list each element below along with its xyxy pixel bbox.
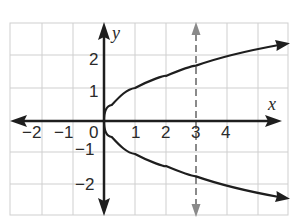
x-tick-label: −2 xyxy=(22,123,41,142)
dashed-arrow-up-icon xyxy=(192,22,201,35)
y-tick-label: −1 xyxy=(75,140,94,159)
coordinate-plane: y x −2 −1 0 1 2 3 4 2 1 −1 −2 xyxy=(0,0,292,222)
x-axis-label: x xyxy=(267,94,276,114)
x-tick-label: 4 xyxy=(221,123,230,142)
axes xyxy=(10,22,282,216)
y-axis-label: y xyxy=(110,23,120,43)
x-tick-label: 1 xyxy=(131,123,140,142)
upper-branch xyxy=(104,45,279,121)
x-tick-label: 2 xyxy=(161,123,170,142)
y-tick-label: 1 xyxy=(89,82,98,101)
x-tick-label: −1 xyxy=(54,123,73,142)
y-tick-label: −2 xyxy=(75,175,94,194)
vertical-line-test xyxy=(192,22,201,217)
y-tick-label: 2 xyxy=(89,50,98,69)
graph-figure: y x −2 −1 0 1 2 3 4 2 1 −1 −2 xyxy=(0,0,292,222)
x-tick-label: 3 xyxy=(191,123,200,142)
